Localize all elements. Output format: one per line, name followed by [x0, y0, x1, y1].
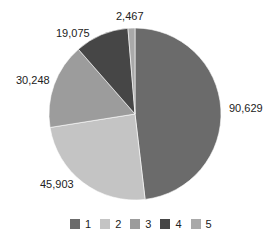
legend-item-3: 3 — [130, 218, 151, 230]
pie-slice-1 — [135, 28, 221, 199]
legend-label-2: 2 — [115, 218, 121, 230]
legend-label-3: 3 — [145, 218, 151, 230]
legend-swatch-5 — [191, 219, 201, 229]
legend-item-4: 4 — [160, 218, 181, 230]
data-label-slice-1: 90,629 — [229, 102, 263, 114]
legend-label-1: 1 — [85, 218, 91, 230]
legend-swatch-1 — [70, 219, 80, 229]
pie-chart — [0, 0, 274, 241]
data-label-slice-3: 30,248 — [16, 74, 50, 86]
legend-item-1: 1 — [70, 218, 91, 230]
legend-swatch-4 — [160, 219, 170, 229]
legend: 1 2 3 4 5 — [70, 218, 221, 230]
legend-label-5: 5 — [206, 218, 212, 230]
data-label-slice-4: 19,075 — [56, 27, 90, 39]
data-label-slice-5: 2,467 — [116, 10, 144, 22]
legend-label-4: 4 — [175, 218, 181, 230]
legend-swatch-2 — [100, 219, 110, 229]
legend-item-2: 2 — [100, 218, 121, 230]
pie-slices — [49, 28, 221, 200]
data-label-slice-2: 45,903 — [40, 178, 74, 190]
legend-item-5: 5 — [191, 218, 212, 230]
legend-swatch-3 — [130, 219, 140, 229]
